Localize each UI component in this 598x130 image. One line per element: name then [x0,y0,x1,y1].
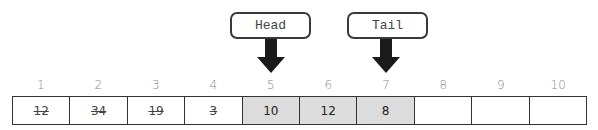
head-arrow-icon [257,39,285,73]
array-cell [415,97,472,124]
index-label: 5 [242,78,300,94]
index-row: 12345678910 [12,78,587,94]
array-cell [472,97,529,124]
cell-value: 3 [210,104,218,118]
index-label: 4 [185,78,243,94]
index-label: 9 [472,78,530,94]
cell-value: 8 [382,104,390,118]
cell-value: 12 [34,104,49,118]
array-cell: 3 [185,97,242,124]
index-label: 10 [530,78,588,94]
index-label: 3 [127,78,185,94]
cell-value: 10 [263,104,278,118]
array-cell: 10 [243,97,300,124]
index-label: 8 [415,78,473,94]
array-cell: 19 [128,97,185,124]
queue-array: 123419310128 [12,96,587,125]
cell-value: 12 [321,104,336,118]
index-label: 7 [357,78,415,94]
array-cell: 8 [357,97,414,124]
head-pointer-box: Head [230,12,311,39]
cell-value: 34 [91,104,106,118]
cell-value: 19 [148,104,163,118]
tail-arrow-icon [372,39,400,73]
tail-pointer-box: Tail [347,12,428,39]
array-cell: 34 [70,97,127,124]
tail-label: Tail [372,18,403,33]
index-label: 1 [12,78,70,94]
index-label: 2 [70,78,128,94]
array-cell: 12 [300,97,357,124]
array-cell [530,97,586,124]
head-label: Head [255,18,286,33]
array-cell: 12 [13,97,70,124]
index-label: 6 [300,78,358,94]
